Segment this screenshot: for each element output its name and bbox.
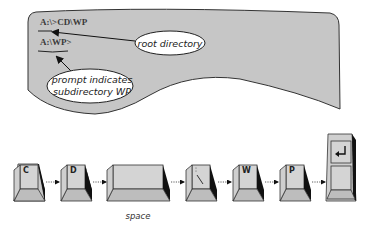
callout-root-directory-label: root directory (138, 38, 203, 49)
key-d-label: D (70, 166, 77, 175)
callout-subdirectory-line1: prompt indicates (51, 74, 133, 85)
space-caption: space (126, 211, 151, 221)
key-d: D (61, 164, 92, 201)
key-p-label: P (289, 166, 295, 175)
key-c-label: C (23, 166, 29, 175)
callout-subdirectory-line2: subdirectory WP (53, 86, 131, 97)
diagram: A:\>CD\WP A:\WP> root directory prompt i… (0, 0, 370, 229)
key-w-label: W (242, 166, 251, 175)
command-line-2: A:\WP> (40, 37, 72, 47)
key-backslash: \ (186, 165, 217, 201)
key-space (107, 165, 170, 201)
key-p: P (280, 165, 311, 201)
key-c: C (14, 164, 45, 201)
key-w: W (233, 165, 264, 201)
key-enter: ↵ (326, 134, 356, 201)
command-line-1: A:\>CD\WP (40, 17, 88, 27)
